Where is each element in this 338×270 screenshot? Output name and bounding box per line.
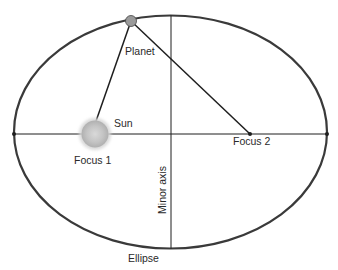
focus2-label: Focus 2 [233,135,271,147]
sun-icon [79,118,111,150]
ellipse-label: Ellipse [128,252,159,264]
planet-to-focus1-line [95,21,131,124]
focus1-label: Focus 1 [74,154,112,166]
orbit-diagram: Planet Sun Focus 1 Focus 2 Minor axis El… [0,0,338,270]
major-axis-right-endpoint [325,132,329,136]
minor-axis-label: Minor axis [156,166,168,214]
major-axis-left-endpoint [12,132,16,136]
planet-label: Planet [125,45,155,57]
sun-label: Sun [114,117,133,129]
planet-to-focus2-line [131,21,250,134]
planet-icon [126,16,137,27]
